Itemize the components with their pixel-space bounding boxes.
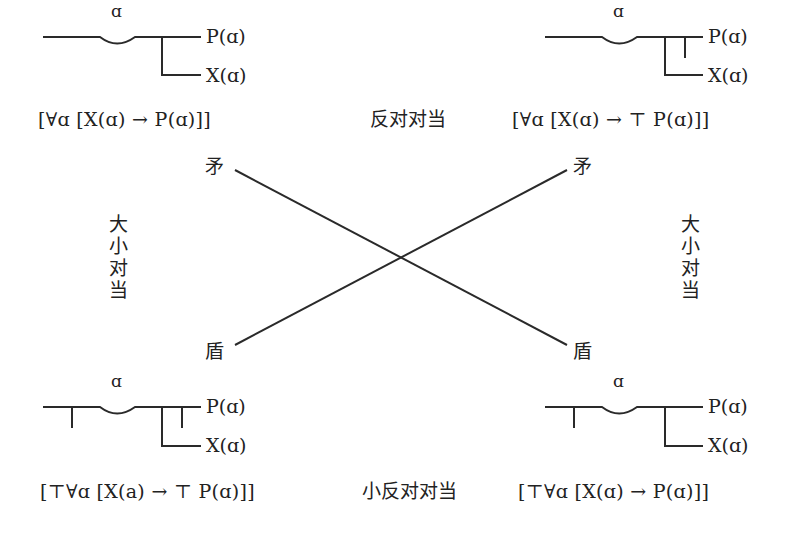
- predicate-p-label: P(ɑ): [206, 397, 246, 416]
- condition-stroke: [162, 37, 201, 75]
- concept-script-bottom-right: [545, 407, 703, 446]
- formula-top-right: [∀ɑ [X(ɑ) → ⊤ P(ɑ)]]: [512, 110, 710, 129]
- content-stroke: [43, 407, 201, 414]
- variable-label: ɑ: [613, 373, 624, 390]
- concept-script-bottom-left: [43, 407, 201, 446]
- relation-contrary: 反对对当: [370, 110, 446, 129]
- predicate-x-label: X(ɑ): [708, 66, 749, 85]
- predicate-x-label: X(ɑ): [708, 436, 749, 455]
- contradiction-label-bottom-left: 盾: [205, 342, 224, 361]
- relation-subalternation-left: 大小对当: [108, 214, 128, 301]
- condition-stroke: [665, 407, 703, 446]
- relation-subcontrary: 小反对对当: [362, 482, 457, 501]
- predicate-p-label: P(ɑ): [708, 397, 748, 416]
- variable-label: ɑ: [613, 3, 624, 20]
- content-stroke: [545, 407, 703, 414]
- variable-label: ɑ: [111, 373, 122, 390]
- variable-label: ɑ: [111, 3, 122, 20]
- concept-script-top-left: [43, 37, 201, 75]
- predicate-x-label: X(ɑ): [206, 436, 247, 455]
- concept-script-top-right: [545, 37, 703, 75]
- contradiction-label-bottom-right: 盾: [573, 342, 592, 361]
- formula-top-left: [∀ɑ [X(ɑ) → P(ɑ)]]: [38, 110, 211, 129]
- formula-bottom-right: [⊤∀ɑ [X(ɑ) → P(ɑ)]]: [518, 482, 709, 501]
- predicate-p-label: P(ɑ): [708, 27, 748, 46]
- contradiction-label-top-right: 矛: [573, 157, 592, 176]
- content-stroke: [43, 37, 201, 44]
- formula-bottom-left: [⊤∀ɑ [X(a) → ⊤ P(ɑ)]]: [40, 482, 255, 501]
- contradiction-label-top-left: 矛: [205, 157, 224, 176]
- predicate-x-label: X(ɑ): [206, 66, 247, 85]
- predicate-p-label: P(ɑ): [206, 27, 246, 46]
- content-stroke: [545, 37, 703, 44]
- relation-subalternation-right: 大小对当: [680, 214, 700, 301]
